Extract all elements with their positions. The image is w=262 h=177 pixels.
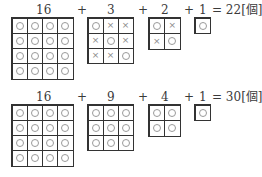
grid-cell [149, 105, 166, 122]
circle-mark-icon [122, 52, 130, 60]
cross-mark-icon: × [122, 21, 130, 30]
grid-cell [103, 135, 119, 151]
row2-plus-1: + [77, 91, 87, 103]
circle-mark-icon [122, 139, 130, 147]
circle-mark-icon [168, 124, 176, 132]
circle-mark-icon [46, 124, 54, 132]
grid-cell [27, 63, 43, 79]
circle-mark-icon [16, 67, 24, 75]
grid-cell [195, 18, 211, 34]
grid-cell [42, 120, 58, 136]
row2-grid-2x2 [148, 104, 181, 137]
grid-cell [118, 120, 134, 136]
grid-cell [12, 18, 28, 34]
row1-term2-label: 3 [107, 4, 115, 16]
circle-mark-icon [16, 124, 24, 132]
circle-mark-icon [61, 52, 69, 60]
grid-cell [164, 120, 181, 137]
circle-mark-icon [31, 67, 39, 75]
grid-cell [88, 120, 104, 136]
grid-cell [57, 48, 73, 64]
row2-grid-1x1 [194, 104, 211, 121]
circle-mark-icon [153, 124, 161, 132]
row2-plus-2: + [138, 91, 148, 103]
circle-mark-icon [46, 67, 54, 75]
circle-mark-icon [107, 109, 115, 117]
circle-mark-icon [46, 37, 54, 45]
grid-cell [12, 105, 28, 121]
row1-plus-2: + [138, 4, 148, 16]
row2-plus-3: + [184, 91, 194, 103]
circle-mark-icon [61, 124, 69, 132]
row1-plus-1: + [77, 4, 87, 16]
grid-cell [42, 48, 58, 64]
grid-cell [27, 120, 43, 136]
grid-cell [57, 105, 73, 121]
circle-mark-icon [61, 109, 69, 117]
grid-cell [27, 135, 43, 151]
circle-mark-icon [46, 109, 54, 117]
cross-mark-icon: × [92, 36, 100, 45]
circle-mark-icon [168, 109, 176, 117]
circle-mark-icon [16, 154, 24, 162]
grid-cell [103, 105, 119, 121]
circle-mark-icon [92, 139, 100, 147]
grid-cell: × [88, 33, 104, 49]
circle-mark-icon [31, 109, 39, 117]
circle-mark-icon [61, 67, 69, 75]
grid-cell [164, 33, 181, 50]
circle-mark-icon [122, 109, 130, 117]
row1-grid-1x1 [194, 17, 211, 34]
row1-term1-label: 16 [36, 4, 51, 16]
row1-grid-2x2: ×× [148, 17, 181, 50]
grid-cell [57, 33, 73, 49]
circle-mark-icon [46, 139, 54, 147]
row1-term4-label: 1 [199, 4, 207, 16]
grid-cell [42, 135, 58, 151]
cross-mark-icon: × [153, 37, 161, 46]
circle-mark-icon [92, 109, 100, 117]
circle-mark-icon [122, 124, 130, 132]
grid-cell [88, 105, 104, 121]
cross-mark-icon: × [107, 21, 115, 30]
circle-mark-icon [92, 124, 100, 132]
grid-cell [42, 33, 58, 49]
grid-cell [27, 18, 43, 34]
grid-cell [149, 18, 166, 35]
grid-cell [57, 135, 73, 151]
cross-mark-icon: × [107, 51, 115, 60]
row1-grid-3x3: ×××××× [87, 17, 134, 64]
grid-cell [118, 105, 134, 121]
circle-mark-icon [16, 37, 24, 45]
grid-cell [42, 150, 58, 166]
row2-result: = 30[個] [212, 91, 262, 103]
row1-term3-label: 2 [161, 4, 169, 16]
grid-cell: × [103, 18, 119, 34]
grid-cell [12, 63, 28, 79]
circle-mark-icon [16, 109, 24, 117]
grid-cell [57, 63, 73, 79]
circle-mark-icon [199, 22, 207, 30]
circle-mark-icon [16, 22, 24, 30]
circle-mark-icon [199, 109, 207, 117]
row2-term1-label: 16 [36, 91, 51, 103]
grid-cell [27, 33, 43, 49]
circle-mark-icon [16, 52, 24, 60]
row2-term4-label: 1 [199, 91, 207, 103]
circle-mark-icon [168, 37, 176, 45]
grid-cell [27, 150, 43, 166]
grid-cell [42, 18, 58, 34]
row2-grid-4x4 [11, 104, 74, 167]
grid-cell [118, 135, 134, 151]
circle-mark-icon [153, 22, 161, 30]
circle-mark-icon [31, 22, 39, 30]
grid-cell [27, 48, 43, 64]
grid-cell [103, 120, 119, 136]
circle-mark-icon [31, 139, 39, 147]
circle-mark-icon [46, 154, 54, 162]
grid-cell [57, 150, 73, 166]
grid-cell [27, 105, 43, 121]
circle-mark-icon [61, 37, 69, 45]
grid-cell [57, 18, 73, 34]
circle-mark-icon [107, 139, 115, 147]
